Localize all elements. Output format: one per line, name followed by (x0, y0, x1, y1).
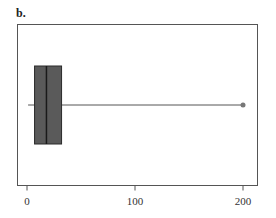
x-tick-label: 0 (24, 195, 30, 207)
x-tick-label: 200 (235, 195, 252, 207)
iqr-box (35, 66, 62, 144)
boxplot-chart: 0100200 (0, 0, 276, 218)
plot-area (28, 66, 245, 144)
x-axis-ticks: 0100200 (24, 186, 252, 207)
x-tick-label: 100 (127, 195, 144, 207)
outlier-point (241, 103, 246, 108)
